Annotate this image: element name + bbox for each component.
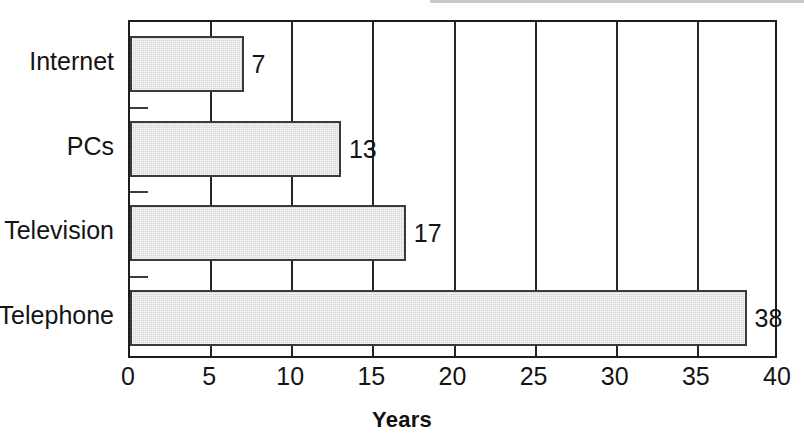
bar-row: 13 xyxy=(130,121,779,177)
category-label-pcs: PCs xyxy=(67,134,114,159)
bar-value-label: 7 xyxy=(252,52,266,77)
category-minor-tick xyxy=(130,107,148,109)
x-tick-label-40: 40 xyxy=(763,364,791,389)
x-tick-label-30: 30 xyxy=(601,364,629,389)
x-axis-title: Years xyxy=(0,407,804,433)
bar-telephone[interactable] xyxy=(130,290,747,346)
bar-value-label: 38 xyxy=(755,305,783,330)
category-minor-tick xyxy=(130,191,148,193)
x-tick-label-25: 25 xyxy=(520,364,548,389)
x-tick-label-5: 5 xyxy=(202,364,216,389)
category-label-television: Television xyxy=(4,218,114,243)
x-tick-label-35: 35 xyxy=(682,364,710,389)
bar-row: 17 xyxy=(130,205,779,261)
bar-value-label: 17 xyxy=(414,221,442,246)
bar-internet[interactable] xyxy=(130,36,244,92)
bar-row: 38 xyxy=(130,290,779,346)
category-minor-tick xyxy=(130,276,148,278)
bar-television[interactable] xyxy=(130,205,406,261)
category-label-telephone: Telephone xyxy=(0,303,114,328)
x-tick-label-15: 15 xyxy=(357,364,385,389)
bar-pcs[interactable] xyxy=(130,121,341,177)
category-label-internet: Internet xyxy=(29,49,114,74)
x-tick-label-20: 20 xyxy=(439,364,467,389)
bar-value-label: 13 xyxy=(349,136,377,161)
x-tick-label-0: 0 xyxy=(121,364,135,389)
x-tick-label-10: 10 xyxy=(276,364,304,389)
bar-chart-figure: 7131738 InternetPCsTelevisionTelephone 0… xyxy=(0,0,804,447)
plot-area: 7131738 xyxy=(128,20,777,358)
bar-row: 7 xyxy=(130,36,779,92)
